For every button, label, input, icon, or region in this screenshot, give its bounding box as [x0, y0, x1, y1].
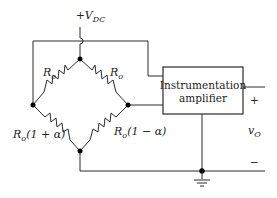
amplifier-label-line2: amplifier: [179, 92, 228, 104]
bottom-wire: [80, 151, 265, 171]
supply-wire: [80, 27, 83, 59]
supply-label: +VDC: [76, 9, 105, 24]
bridge-circuit-diagram: Instrumentation amplifier +VDC Ro Ro Ro(…: [0, 0, 277, 198]
label-top-left-resistor: Ro: [42, 66, 56, 81]
node-bottom: [78, 149, 83, 154]
label-bottom-left-resistor: Ro(1 + α): [12, 128, 65, 143]
output-minus-sign: −: [250, 156, 259, 168]
node-left: [31, 103, 36, 108]
output-plus-sign: +: [250, 94, 259, 106]
label-bottom-right-resistor: Ro(1 − α): [113, 125, 166, 140]
ground-icon: [194, 171, 210, 186]
output-voltage-label: vO: [248, 124, 261, 139]
resistor-top-right: [80, 59, 128, 105]
label-top-right-resistor: Ro: [109, 66, 123, 81]
resistor-top-left: [33, 59, 80, 105]
node-top: [78, 57, 83, 62]
node-right: [126, 103, 131, 108]
amplifier-label-line1: Instrumentation: [160, 79, 247, 91]
